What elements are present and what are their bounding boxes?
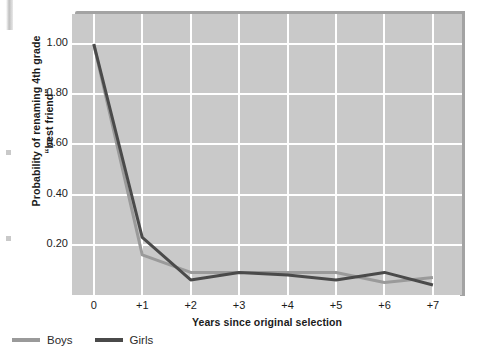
y-tick-label: 1.00 xyxy=(34,36,68,48)
legend-item-boys[interactable]: Boys xyxy=(12,334,73,346)
legend: BoysGirls xyxy=(12,334,153,346)
x-tick-label: +1 xyxy=(122,299,162,311)
figure-panel: Probability of renaming 4th grade “best … xyxy=(0,0,485,355)
y-tick-label: 0.40 xyxy=(34,187,68,199)
x-tick-label: +3 xyxy=(219,299,259,311)
legend-label: Boys xyxy=(47,334,73,346)
y-tick-label: 0.80 xyxy=(34,86,68,98)
series-line-girls xyxy=(94,44,433,285)
x-tick-label: +2 xyxy=(171,299,211,311)
page-edge-artifact-low xyxy=(6,236,11,241)
x-tick-label: +6 xyxy=(364,299,404,311)
legend-item-girls[interactable]: Girls xyxy=(95,334,154,346)
x-tick-label: +5 xyxy=(316,299,356,311)
boys-line-swatch xyxy=(12,338,40,342)
series-lines xyxy=(72,14,462,295)
x-tick-label: 0 xyxy=(74,299,114,311)
legend-label: Girls xyxy=(130,334,154,346)
x-tick-label: +7 xyxy=(413,299,453,311)
girls-line-swatch xyxy=(95,338,123,342)
x-tick-label: +4 xyxy=(268,299,308,311)
x-axis-title: Years since original selection xyxy=(72,316,462,328)
plot-area xyxy=(72,14,462,295)
y-tick-label: 0.60 xyxy=(34,136,68,148)
x-axis-ticks: 0+1+2+3+4+5+6+7 xyxy=(72,299,462,315)
y-axis-ticks: 0.200.400.600.801.00 xyxy=(30,14,68,295)
page-edge-artifact xyxy=(6,0,13,30)
series-line-boys xyxy=(94,44,433,282)
y-tick-label: 0.20 xyxy=(34,237,68,249)
page-edge-artifact-mid xyxy=(6,150,11,155)
